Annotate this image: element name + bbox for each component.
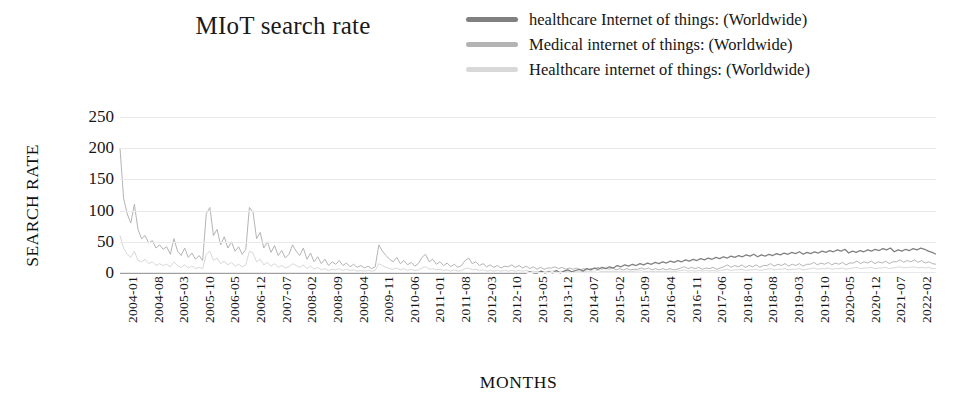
- x-axis-tick-label: 2014-07: [586, 276, 602, 323]
- x-axis-tick-label: 2018-01: [740, 276, 756, 323]
- x-axis-tick-label: 2016-04: [663, 276, 679, 323]
- plot-area: [120, 117, 936, 273]
- x-axis-tick-label: 2009-04: [356, 276, 372, 323]
- legend-item[interactable]: Healthcare internet of things: (Worldwid…: [466, 59, 810, 80]
- grid-line: [120, 148, 936, 149]
- y-axis-tick-label: 0: [52, 263, 114, 283]
- y-axis-ticks: 250200150100500: [50, 117, 114, 273]
- y-axis-tick-label: 250: [52, 107, 114, 127]
- x-axis-tick-label: 2013-12: [560, 276, 576, 323]
- legend-item-label: healthcare Internet of things: (Worldwid…: [529, 11, 807, 29]
- x-axis-tick-label: 2021-07: [893, 276, 909, 323]
- x-axis-ticks: 2004-012004-082005-032005-102006-052006-…: [120, 276, 936, 354]
- grid-line: [120, 211, 936, 212]
- legend-swatch-icon: [466, 42, 518, 47]
- y-axis-tick-label: 50: [52, 232, 114, 252]
- series-lines: [120, 117, 936, 273]
- x-axis-tick-label: 2010-06: [407, 276, 423, 323]
- x-axis-tick-label: 2015-02: [612, 276, 628, 323]
- y-axis-title: SEARCH RATE: [22, 126, 43, 286]
- grid-line: [120, 117, 936, 118]
- x-axis-tick-label: 2017-06: [714, 276, 730, 323]
- x-axis-tick-label: 2005-03: [176, 276, 192, 323]
- grid-line: [120, 242, 936, 243]
- legend-item[interactable]: healthcare Internet of things: (Worldwid…: [466, 9, 810, 30]
- x-axis-tick-label: 2018-08: [765, 276, 781, 323]
- y-axis-tick-label: 100: [52, 201, 114, 221]
- x-axis-title: MONTHS: [0, 372, 973, 393]
- x-axis-tick-label: 2008-02: [304, 276, 320, 323]
- x-axis-tick-label: 2007-07: [279, 276, 295, 323]
- x-axis-tick-label: 2020-05: [842, 276, 858, 323]
- x-axis-tick-label: 2022-02: [919, 276, 935, 323]
- x-axis-tick-label: 2004-08: [151, 276, 167, 323]
- legend-swatch-icon: [466, 67, 518, 72]
- grid-line: [120, 272, 936, 273]
- chart-legend: healthcare Internet of things: (Worldwid…: [466, 9, 810, 80]
- x-axis-tick-label: 2020-12: [868, 276, 884, 323]
- x-axis-tick-label: 2012-03: [484, 276, 500, 323]
- x-axis-tick-label: 2013-05: [535, 276, 551, 323]
- series-line: [120, 248, 936, 273]
- legend-item[interactable]: Medical internet of things: (Worldwide): [466, 34, 810, 55]
- x-axis-tick-label: 2015-09: [637, 276, 653, 323]
- legend-item-label: Healthcare internet of things: (Worldwid…: [529, 61, 810, 79]
- x-axis-title-text: MONTHS: [480, 372, 558, 392]
- chart-container: MIoT search rate healthcare Internet of …: [0, 0, 973, 418]
- x-axis-tick-label: 2011-01: [432, 276, 448, 323]
- x-axis-tick-label: 2004-01: [125, 276, 141, 323]
- x-axis-tick-label: 2012-10: [509, 276, 525, 323]
- y-axis-tick-label: 200: [52, 138, 114, 158]
- x-axis-tick-label: 2008-09: [330, 276, 346, 323]
- legend-item-label: Medical internet of things: (Worldwide): [529, 36, 793, 54]
- legend-swatch-icon: [466, 17, 518, 22]
- x-axis-tick-label: 2005-10: [202, 276, 218, 323]
- grid-line: [120, 179, 936, 180]
- x-axis-tick-label: 2019-10: [817, 276, 833, 323]
- chart-title: MIoT search rate: [118, 12, 448, 40]
- x-axis-tick-label: 2011-08: [458, 276, 474, 323]
- x-axis-tick-label: 2006-05: [227, 276, 243, 323]
- y-axis-tick-label: 150: [52, 169, 114, 189]
- x-axis-tick-label: 2016-11: [689, 276, 705, 323]
- x-axis-tick-label: 2019-03: [791, 276, 807, 323]
- x-axis-tick-label: 2009-11: [381, 276, 397, 323]
- x-axis-tick-label: 2006-12: [253, 276, 269, 323]
